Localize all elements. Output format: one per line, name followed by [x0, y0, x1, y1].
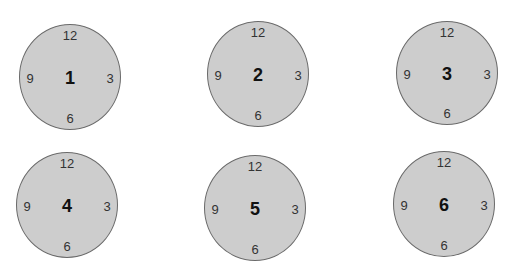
clock-number: 3	[442, 65, 452, 83]
clock-marker-left: 9	[23, 200, 30, 213]
clock-marker-top: 12	[248, 160, 262, 173]
clock-marker-top: 12	[60, 157, 74, 170]
clock-marker-right: 3	[480, 199, 487, 212]
clock-marker-left: 9	[403, 68, 410, 81]
clock-marker-right: 3	[294, 69, 301, 82]
clock-marker-left: 9	[400, 199, 407, 212]
clock-marker-top: 12	[63, 29, 77, 42]
clock-marker-bottom: 6	[63, 240, 70, 253]
clock-marker-bottom: 6	[440, 239, 447, 252]
clock-number: 2	[253, 66, 263, 84]
clock-marker-left: 9	[26, 72, 33, 85]
clock-number: 6	[439, 196, 449, 214]
clock-marker-left: 9	[211, 203, 218, 216]
clock-marker-right: 3	[291, 203, 298, 216]
clock-marker-right: 3	[103, 200, 110, 213]
clock-marker-right: 3	[106, 72, 113, 85]
clock-marker-left: 9	[214, 69, 221, 82]
clock-number: 4	[62, 197, 72, 215]
clock-marker-top: 12	[251, 26, 265, 39]
clock-number: 5	[250, 200, 260, 218]
clock-marker-top: 12	[437, 156, 451, 169]
clock-marker-bottom: 6	[66, 112, 73, 125]
clock-number: 1	[65, 69, 75, 87]
clock-marker-right: 3	[483, 68, 490, 81]
clock-marker-bottom: 6	[443, 107, 450, 120]
clock-marker-bottom: 6	[251, 243, 258, 256]
clock-marker-bottom: 6	[254, 109, 261, 122]
clock-marker-top: 12	[440, 26, 454, 39]
